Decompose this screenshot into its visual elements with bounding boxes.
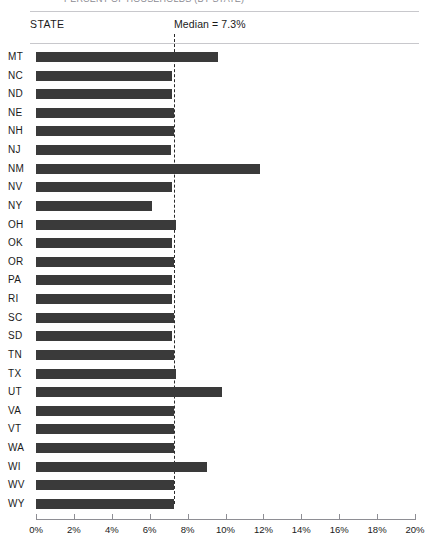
x-axis-tick	[74, 514, 75, 520]
bar	[36, 480, 174, 490]
bar-row-label: NY	[8, 200, 34, 211]
bar	[36, 313, 174, 323]
bar	[36, 71, 172, 81]
supertitle-text: PERCENT OF HOUSEHOLDS (BY STATE)	[64, 0, 244, 4]
bar-row: NH	[0, 122, 431, 141]
bar	[36, 387, 222, 397]
bar	[36, 89, 172, 99]
x-axis-tick-label: 16%	[330, 524, 349, 535]
bar-chart-plot-area: MTNCNDNENHNJNMNVNYOHOKORPARISCSDTNTXUTVA…	[0, 46, 431, 512]
x-axis-tick-label: 4%	[105, 524, 119, 535]
x-axis-tick-label: 2%	[67, 524, 81, 535]
median-annotation-label: Median = 7.3%	[174, 18, 246, 30]
x-axis-tick	[112, 514, 113, 520]
bar-row: NC	[0, 67, 431, 86]
x-axis: 0%2%4%6%8%10%12%14%16%18%20%	[0, 512, 431, 547]
bar-row-label: VA	[8, 405, 34, 416]
bar	[36, 182, 172, 192]
bar-row-label: SC	[8, 312, 34, 323]
x-axis-tick	[36, 514, 37, 520]
bar	[36, 220, 176, 230]
bar-row: RI	[0, 290, 431, 309]
x-axis-tick	[301, 514, 302, 520]
x-axis-tick	[263, 514, 264, 520]
x-axis-tick	[339, 514, 340, 520]
bar-row-label: WY	[8, 498, 34, 509]
bar	[36, 275, 172, 285]
bar-row: SC	[0, 309, 431, 328]
bar-row-label: ND	[8, 88, 34, 99]
bar	[36, 294, 172, 304]
bar	[36, 406, 174, 416]
bar-row: VT	[0, 420, 431, 439]
bar-row-label: VT	[8, 423, 34, 434]
bar	[36, 257, 174, 267]
bar-row: TX	[0, 365, 431, 384]
bar	[36, 126, 174, 136]
column-header-state: STATE	[30, 18, 65, 30]
bar-row: UT	[0, 383, 431, 402]
bar-row-label: NE	[8, 107, 34, 118]
x-axis-tick-label: 12%	[254, 524, 273, 535]
bar-row: WV	[0, 476, 431, 495]
bar-row: TN	[0, 346, 431, 365]
bar-row-label: NV	[8, 181, 34, 192]
x-axis-tick	[415, 514, 416, 520]
bar	[36, 462, 207, 472]
bar-row-label: NM	[8, 163, 34, 174]
chart-header-row: STATE Median = 7.3%	[0, 18, 431, 38]
bar-row-label: OR	[8, 256, 34, 267]
bar-row: WY	[0, 495, 431, 514]
x-axis-tick	[188, 514, 189, 520]
x-axis-tick-label: 8%	[181, 524, 195, 535]
bar	[36, 499, 174, 509]
bar	[36, 424, 174, 434]
bar-row: MT	[0, 48, 431, 67]
bar-row: WA	[0, 439, 431, 458]
bar-row-label: UT	[8, 386, 34, 397]
bar-row: VA	[0, 402, 431, 421]
bar	[36, 164, 260, 174]
x-axis-tick	[150, 514, 151, 520]
bar-row-label: SD	[8, 330, 34, 341]
x-axis-tick-label: 20%	[405, 524, 424, 535]
top-rule	[30, 11, 419, 12]
bar-row-label: WA	[8, 442, 34, 453]
bar	[36, 369, 176, 379]
bar-row-label: OK	[8, 237, 34, 248]
bar	[36, 238, 172, 248]
x-axis-tick	[377, 514, 378, 520]
bar-row-label: RI	[8, 293, 34, 304]
bar	[36, 145, 171, 155]
bar	[36, 108, 174, 118]
bar-row-label: PA	[8, 274, 34, 285]
x-axis-tick-label: 10%	[216, 524, 235, 535]
bar-row-label: WI	[8, 461, 34, 472]
header-rule	[30, 43, 419, 44]
bar-row-label: MT	[8, 51, 34, 62]
bar	[36, 350, 174, 360]
bar-row-label: NH	[8, 125, 34, 136]
bar-row: OH	[0, 216, 431, 235]
x-axis-tick-label: 18%	[368, 524, 387, 535]
bar-row: NJ	[0, 141, 431, 160]
bar-row: NE	[0, 104, 431, 123]
bar-row: NM	[0, 160, 431, 179]
bar	[36, 201, 152, 211]
bar-row: OR	[0, 253, 431, 272]
bar-row: ND	[0, 85, 431, 104]
bar-row-label: NC	[8, 70, 34, 81]
bar-row-label: TX	[8, 368, 34, 379]
bar-row: NY	[0, 197, 431, 216]
bar	[36, 52, 218, 62]
bar-row-label: WV	[8, 479, 34, 490]
bar-row: WI	[0, 458, 431, 477]
bar-row-label: OH	[8, 219, 34, 230]
bar-row: SD	[0, 327, 431, 346]
bar-row-label: NJ	[8, 144, 34, 155]
bar-row: NV	[0, 178, 431, 197]
x-axis-tick-label: 6%	[143, 524, 157, 535]
bar-row: OK	[0, 234, 431, 253]
clipped-supertitle: PERCENT OF HOUSEHOLDS (BY STATE)	[0, 0, 431, 9]
x-axis-tick	[226, 514, 227, 520]
